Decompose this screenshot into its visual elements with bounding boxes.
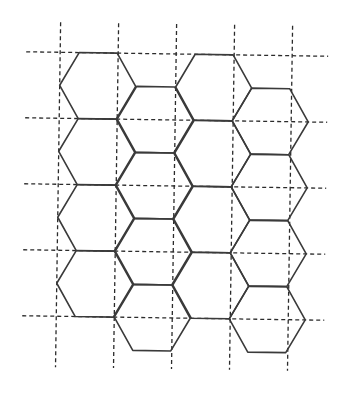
grid-horizontal-line-1 [26, 52, 328, 56]
grid-horizontal-line-2 [25, 118, 327, 122]
hexagon-C2 [174, 120, 251, 187]
hexagon-A3 [57, 184, 134, 251]
hexagon-C3 [173, 186, 250, 253]
grid-horizontal-line-3 [24, 184, 326, 188]
hexagon-C1 [175, 54, 252, 121]
grid-vertical-line-5 [287, 26, 292, 371]
grid-vertical-line-3 [171, 24, 176, 369]
grid-horizontal-line-4 [23, 250, 325, 254]
hexagon-A4 [56, 250, 133, 317]
grid-horizontal-line-5 [22, 316, 324, 320]
diagram-content [22, 22, 329, 371]
hexagon-tessellation [56, 52, 309, 353]
hexagon-A1 [59, 52, 136, 119]
dashed-grid [22, 22, 329, 371]
hexagon-grid-diagram [0, 0, 344, 395]
hexagon-A2 [58, 118, 135, 185]
hexagon-C4 [172, 252, 249, 319]
grid-vertical-line-1 [56, 22, 61, 367]
